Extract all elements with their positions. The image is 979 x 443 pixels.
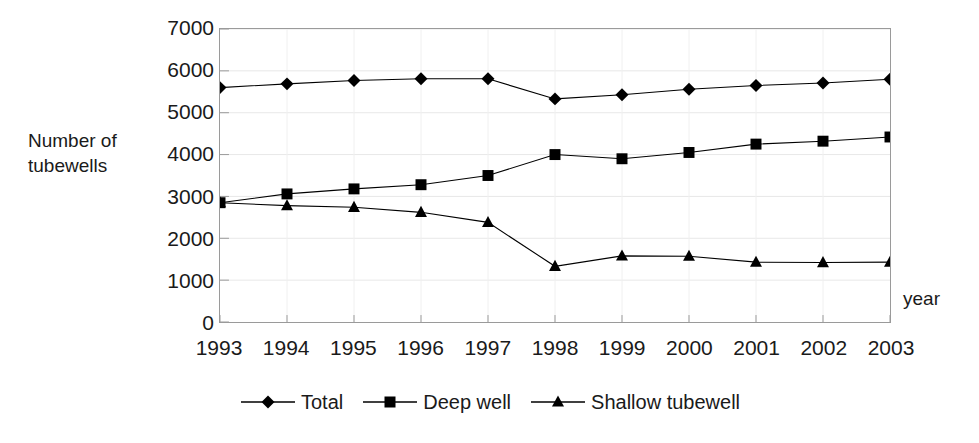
line-chart-figure: Number of tubewells 01000200030004000500…: [0, 0, 979, 443]
x-tick-label: 1995: [318, 336, 388, 360]
x-tick-label: 1996: [386, 336, 456, 360]
x-tick-label: 1998: [520, 336, 590, 360]
x-tick-label: 2002: [789, 336, 859, 360]
plot-area: [219, 28, 891, 323]
data-point-triangle: [281, 199, 293, 210]
legend-item-total[interactable]: Total: [239, 392, 343, 412]
data-point-triangle: [683, 250, 695, 261]
legend-label: Total: [301, 392, 343, 412]
data-point-diamond: [750, 79, 763, 92]
data-point-triangle: [348, 201, 360, 212]
data-point-square: [349, 183, 360, 194]
data-point-square: [550, 149, 561, 160]
data-point-square: [751, 139, 762, 150]
data-point-diamond: [817, 77, 830, 90]
x-tick-label: 2000: [654, 336, 724, 360]
x-tick-label: 1993: [184, 336, 254, 360]
y-tick-label: 0: [122, 312, 214, 333]
y-tick-label: 5000: [122, 101, 214, 122]
data-point-diamond: [220, 81, 226, 94]
legend-item-deep-well[interactable]: Deep well: [361, 392, 511, 412]
legend-swatch: [529, 392, 587, 412]
y-axis-tick-labels: 01000200030004000500060007000: [118, 0, 214, 443]
data-point-diamond: [683, 83, 696, 96]
data-point-diamond: [616, 88, 629, 101]
x-tick-label: 1997: [453, 336, 523, 360]
data-point-diamond: [261, 396, 274, 409]
data-point-triangle: [750, 256, 762, 267]
x-axis-title: year: [903, 289, 940, 309]
data-point-diamond: [549, 92, 562, 105]
y-tick-label: 3000: [122, 186, 214, 207]
plot-svg: [220, 29, 890, 322]
legend-label: Shallow tubewell: [591, 392, 740, 412]
legend-marker-square-icon: [361, 392, 419, 412]
data-point-triangle: [884, 256, 890, 267]
legend-marker-diamond-icon: [239, 392, 297, 412]
data-point-square: [818, 136, 829, 147]
chart-legend: TotalDeep wellShallow tubewell: [0, 385, 979, 419]
y-tick-label: 6000: [122, 59, 214, 80]
legend-swatch: [361, 392, 419, 412]
data-point-square: [416, 179, 427, 190]
x-tick-label: 2003: [856, 336, 926, 360]
data-point-diamond: [348, 74, 361, 87]
y-tick-label: 2000: [122, 228, 214, 249]
data-point-triangle: [552, 395, 564, 406]
data-point-triangle: [415, 206, 427, 217]
legend-item-shallow-tubewell[interactable]: Shallow tubewell: [529, 392, 740, 412]
data-point-square: [282, 188, 293, 199]
y-tick-label: 1000: [122, 270, 214, 291]
data-point-square: [885, 132, 890, 143]
y-tick-label: 7000: [122, 17, 214, 38]
data-point-diamond: [415, 72, 428, 85]
data-point-square: [483, 170, 494, 181]
x-axis-tick-labels: 1993199419951996199719981999200020012002…: [219, 336, 891, 366]
x-tick-label: 1994: [251, 336, 321, 360]
legend-swatch: [239, 392, 297, 412]
legend-marker-triangle-icon: [529, 392, 587, 412]
data-point-square: [385, 397, 396, 408]
x-tick-label: 2001: [722, 336, 792, 360]
x-tick-label: 1999: [587, 336, 657, 360]
data-point-diamond: [482, 72, 495, 85]
y-tick-label: 4000: [122, 143, 214, 164]
data-point-diamond: [281, 77, 294, 90]
data-point-square: [684, 147, 695, 158]
legend-label: Deep well: [423, 392, 511, 412]
data-point-triangle: [817, 256, 829, 267]
data-point-diamond: [884, 73, 890, 86]
data-point-square: [617, 153, 628, 164]
data-point-triangle: [616, 249, 628, 260]
